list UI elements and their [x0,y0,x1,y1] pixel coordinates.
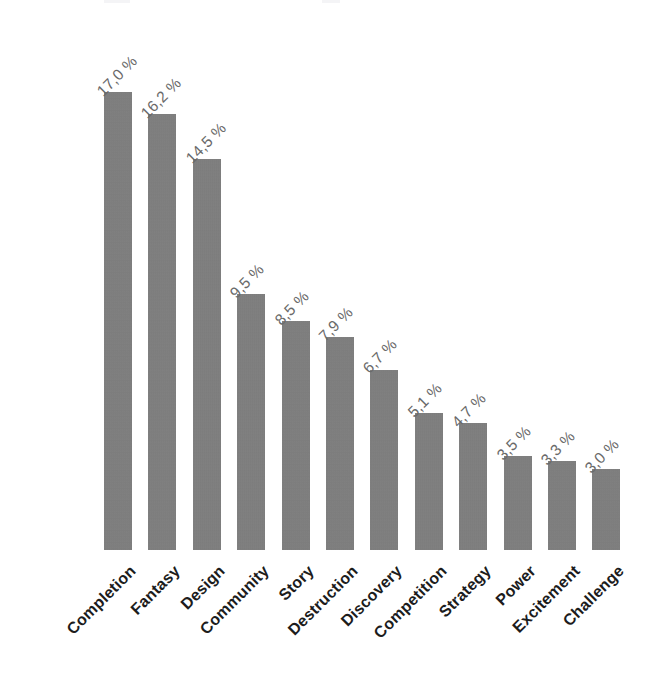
bar-chart: 17,0 %16,2 %14,5 %9,5 %8,5 %7,9 %6,7 %5,… [0,0,669,698]
bar [282,321,310,550]
bar [148,114,176,550]
bar [459,423,487,550]
bar [193,159,221,550]
plot-area: 17,0 %16,2 %14,5 %9,5 %8,5 %7,9 %6,7 %5,… [0,0,669,550]
bar [504,456,532,550]
bar [415,413,443,550]
bar [592,469,620,550]
bar [237,294,265,550]
bar [548,461,576,550]
category-axis: CompletionFantasyDesignCommunityStoryDes… [0,550,669,698]
bar [370,370,398,551]
bar [104,92,132,550]
bar [326,337,354,550]
